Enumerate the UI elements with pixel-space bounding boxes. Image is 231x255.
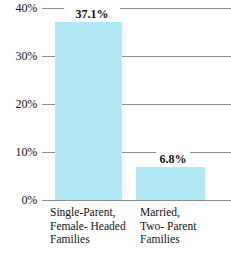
category-label-single-parent-female-headed: Single-Parent, Female- Headed Families xyxy=(50,206,138,247)
bar-married-two-parent xyxy=(136,167,205,200)
gridline-0-baseline xyxy=(42,200,231,201)
bars-layer xyxy=(0,8,231,200)
bar-chart: 40% 30% 20% 10% 0% 37.1% 6.8% Single-Par… xyxy=(0,0,231,255)
value-label-single-parent-female-headed: 37.1% xyxy=(64,8,120,20)
category-label-married-two-parent: Married, Two- Parent Families xyxy=(140,206,226,247)
category-axis-labels: Single-Parent, Female- Headed Families M… xyxy=(0,206,231,255)
bar-single-parent-female-headed xyxy=(55,22,122,200)
value-label-married-two-parent: 6.8% xyxy=(148,153,198,165)
